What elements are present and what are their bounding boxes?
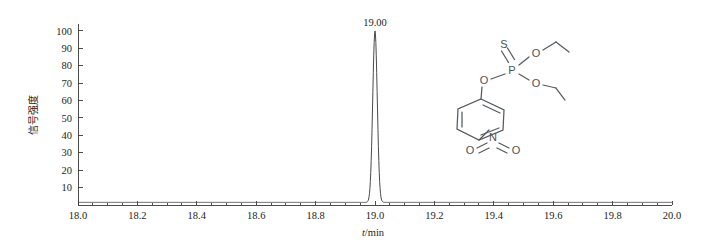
atom-label-o_n1: O bbox=[466, 144, 475, 156]
bond-p-s-a bbox=[502, 51, 509, 63]
atom-label-s: S bbox=[500, 38, 507, 50]
bond-p-s-b bbox=[508, 48, 515, 60]
atom-label-o_aryl: O bbox=[480, 74, 489, 86]
bond-c3-c4-lower bbox=[556, 88, 565, 100]
molecular-structure-diagram: SPOOONOO bbox=[0, 0, 704, 243]
bond-p-oet2 bbox=[519, 74, 529, 80]
bond-n-o2-b bbox=[497, 148, 507, 153]
atom-label-o_et1: O bbox=[532, 47, 541, 59]
bond-c1-c2-upper bbox=[556, 42, 569, 52]
bond-oet1-c1 bbox=[543, 42, 556, 50]
atom-label-p: P bbox=[508, 64, 515, 76]
aryl-linkage bbox=[481, 87, 482, 99]
atom-label-n: N bbox=[489, 131, 497, 143]
bond-n-o1-a bbox=[477, 143, 487, 148]
bond-n-o1-b bbox=[479, 148, 489, 153]
bond-oet2-c3 bbox=[543, 85, 556, 88]
bond-p-oaryl bbox=[491, 74, 505, 79]
atom-label-o_et2: O bbox=[532, 77, 541, 89]
bond-oaryl-ring bbox=[481, 87, 482, 99]
bond-p-oet1 bbox=[519, 57, 529, 65]
phosphorothioate-core bbox=[491, 42, 569, 100]
chromatogram-figure: 18.018.218.418.618.819.019.219.419.619.8… bbox=[0, 0, 704, 243]
atom-label-o_n2: O bbox=[512, 144, 521, 156]
bond-n-o2-a bbox=[499, 143, 509, 148]
